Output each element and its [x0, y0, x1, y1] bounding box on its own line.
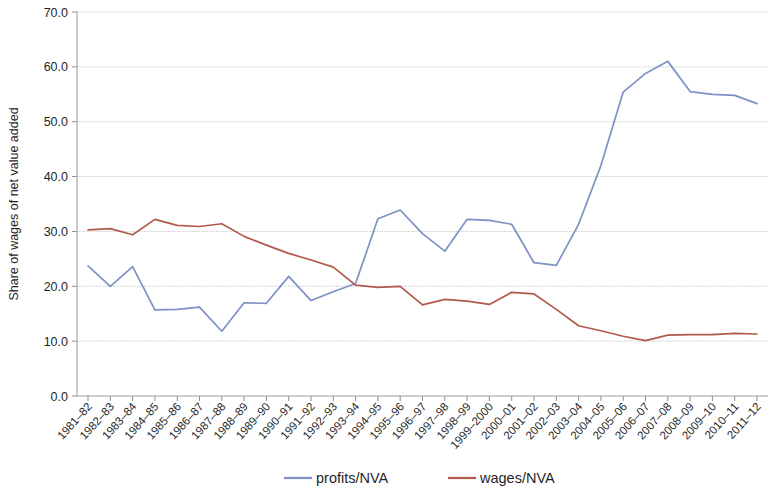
y-tick-label: 70.0	[44, 6, 68, 20]
y-tick-label: 10.0	[44, 335, 68, 349]
axis-lines	[77, 12, 768, 396]
legend-label-profits-nva: profits/NVA	[316, 470, 389, 486]
y-tick-label: 50.0	[44, 115, 68, 129]
y-tick-label: 60.0	[44, 60, 68, 74]
y-axis-tick-labels: 0.010.020.030.040.050.060.070.0	[44, 6, 68, 404]
y-axis-title-text: Share of wages of net value added	[7, 107, 21, 300]
x-axis-tick-labels: 1981–821982–831983–841984–851985–861986–…	[55, 400, 763, 451]
y-tick-label: 20.0	[44, 280, 68, 294]
data-series	[88, 61, 757, 340]
line-chart: 0.010.020.030.040.050.060.070.0 1981–821…	[0, 0, 780, 494]
series-line-wages-nva	[88, 219, 757, 340]
y-tick-label: 0.0	[51, 390, 68, 404]
axis-ticks	[72, 12, 757, 401]
y-tick-label: 40.0	[44, 170, 68, 184]
y-axis-title: Share of wages of net value added	[7, 107, 21, 300]
series-line-profits-nva	[88, 61, 757, 331]
legend-label-wages-nva: wages/NVA	[479, 470, 555, 486]
y-tick-label: 30.0	[44, 225, 68, 239]
chart-legend: profits/NVAwages/NVA	[284, 470, 555, 486]
gridlines	[77, 12, 768, 341]
chart-container: 0.010.020.030.040.050.060.070.0 1981–821…	[0, 0, 780, 494]
